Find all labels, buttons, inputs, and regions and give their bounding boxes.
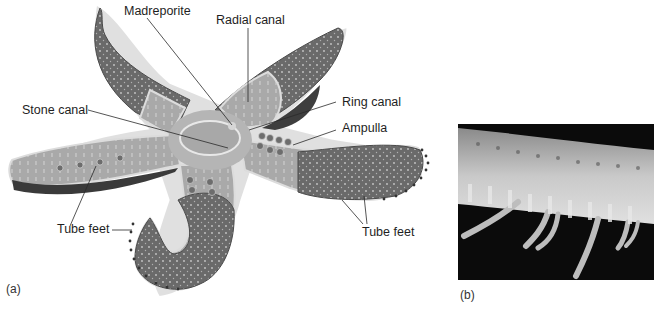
- label-ampulla: Ampulla: [342, 122, 387, 135]
- label-radial-canal: Radial canal: [216, 14, 285, 27]
- madreporite: [228, 122, 236, 130]
- label-madreporite: Madreporite: [124, 5, 191, 18]
- label-tube-feet-left: Tube feet: [57, 223, 109, 236]
- label-stone-canal: Stone canal: [22, 104, 88, 117]
- label-tube-feet-right: Tube feet: [362, 226, 414, 239]
- label-ring-canal: Ring canal: [342, 96, 401, 109]
- panel-label-b: (b): [460, 289, 475, 301]
- figure: Madreporite Radial canal Stone canal Rin…: [0, 0, 654, 310]
- starfish-illustration: [0, 0, 454, 310]
- panel-label-a: (a): [6, 283, 21, 295]
- tube-feet-photo: [458, 124, 654, 280]
